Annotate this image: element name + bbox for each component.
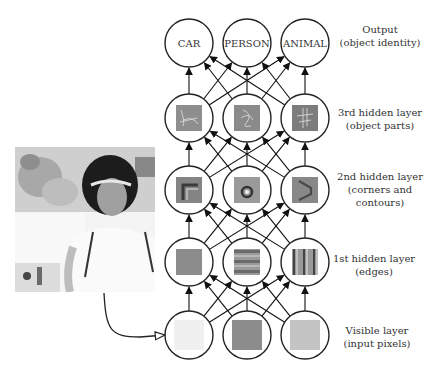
vertical-edge-feature-icon [292, 249, 318, 275]
corner-feature-icon [176, 177, 202, 203]
1st-hidden-layer-node [281, 238, 329, 286]
output-layer-subtitle: (object identity) [330, 36, 429, 49]
output-node-label: ANIMAL [282, 38, 327, 49]
object-part-feature-1-icon [176, 105, 202, 131]
2nd-hidden-layer-node [223, 166, 271, 214]
visible-layer-node [281, 311, 329, 359]
horizontal-edge-feature-icon [234, 249, 260, 275]
object-part-feature-3-icon [292, 105, 318, 131]
object-part-feature-2-icon [234, 105, 260, 131]
output-node-label: CAR [178, 38, 201, 49]
3rd-hidden-layer-node [165, 94, 213, 142]
hidden-layer-2-subtitle-2: contours) [330, 196, 429, 209]
hidden-layer-3-subtitle: (object parts) [330, 119, 429, 132]
medium-pixel-patch-icon [290, 320, 320, 350]
output-node-person: PERSON [223, 19, 271, 67]
feature-stroke [245, 190, 249, 194]
hidden-layer-2-title: 2nd hidden layer [330, 170, 429, 183]
output-node-car: CAR [165, 19, 213, 67]
uniform-edge-feature-icon [176, 249, 202, 275]
1st-hidden-layer-node [223, 238, 271, 286]
output-node-label: PERSON [224, 38, 270, 49]
output-layer-label: Output (object identity) [330, 23, 429, 49]
light-pixel-patch-icon [174, 320, 204, 350]
hidden-layer-1-subtitle: (edges) [324, 265, 424, 278]
1st-hidden-layer-node [165, 238, 213, 286]
visible-layer-label: Visible layer (input pixels) [327, 324, 427, 350]
3rd-hidden-layer-node [223, 94, 271, 142]
3rd-hidden-layer-node [281, 94, 329, 142]
hidden-layer-2-subtitle-1: (corners and [330, 183, 429, 196]
dark-pixel-patch-icon [232, 320, 262, 350]
visible-layer-node [223, 311, 271, 359]
output-layer-title: Output [330, 23, 429, 36]
contour-curve-feature-icon [292, 177, 318, 203]
hidden-layer-3-label: 3rd hidden layer (object parts) [330, 106, 429, 132]
person-photo-icon [15, 147, 155, 292]
hidden-layer-3-title: 3rd hidden layer [330, 106, 429, 119]
output-node-animal: ANIMAL [281, 19, 329, 67]
visible-layer-node [165, 311, 213, 359]
input-arrow [104, 293, 165, 337]
hidden-layer-1-title: 1st hidden layer [324, 252, 424, 265]
visible-layer-subtitle: (input pixels) [327, 337, 427, 350]
2nd-hidden-layer-node [165, 166, 213, 214]
input-photo [15, 147, 155, 292]
hidden-layer-2-label: 2nd hidden layer (corners and contours) [330, 170, 429, 209]
hidden-layer-1-label: 1st hidden layer (edges) [324, 252, 424, 278]
visible-layer-title: Visible layer [327, 324, 427, 337]
2nd-hidden-layer-node [281, 166, 329, 214]
